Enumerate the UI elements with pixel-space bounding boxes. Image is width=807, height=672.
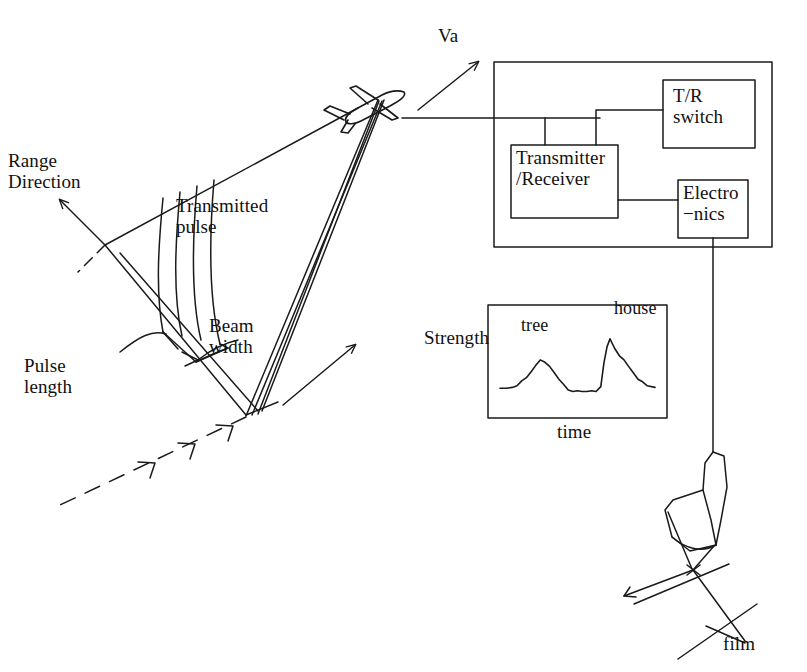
film-plane-upper xyxy=(634,564,729,604)
transmitted-pulse-label: Transmitted pulse xyxy=(176,195,268,238)
strength-axis-label: Strength xyxy=(424,327,489,348)
aircraft-icon xyxy=(324,86,405,133)
beam-edge-far xyxy=(262,100,384,411)
aircraft-wing-left xyxy=(350,86,378,104)
track-chevron-1 xyxy=(216,425,233,441)
velocity-label: Va xyxy=(438,25,458,46)
figure-canvas: Range Direction Transmitted pulse Beam w… xyxy=(0,0,807,672)
recorder-funnel xyxy=(665,490,716,551)
trswitch-to-transmitter xyxy=(596,110,663,145)
range-dashed-extension xyxy=(78,245,105,272)
beam-inner-a xyxy=(258,101,379,414)
strength-waveform xyxy=(500,339,655,392)
pulse-length-leader xyxy=(120,333,166,352)
velocity-arrow xyxy=(418,62,478,110)
beam-width-label: Beam width xyxy=(209,315,254,358)
range-direction-label: Range Direction xyxy=(8,150,81,193)
strength-plot-box xyxy=(488,305,667,418)
pulse-length-label: Pulse length xyxy=(24,355,72,398)
tree-peak-label: tree xyxy=(521,315,548,335)
recorder-body-right xyxy=(703,452,716,545)
azimuth-direction-arrow xyxy=(283,345,355,405)
transmitter-receiver-label: Transmitter /Receiver xyxy=(516,147,605,190)
house-peak-label: house xyxy=(614,298,657,318)
film-recorder xyxy=(624,452,757,659)
light-ray-left xyxy=(668,512,692,569)
ground-track-dashed xyxy=(60,417,246,505)
recorder-body-left xyxy=(713,452,727,545)
aircraft-fin xyxy=(341,120,355,133)
electronics-label: Electro −nics xyxy=(683,182,739,225)
film-label: film xyxy=(723,633,755,654)
beam-edge-near xyxy=(246,100,378,416)
time-axis-label: time xyxy=(557,421,591,442)
tr-switch-label: T/R switch xyxy=(673,85,723,128)
pulse-wavefront-1 xyxy=(158,198,163,332)
range-direction-arrow xyxy=(60,200,105,245)
beam-inner-b xyxy=(252,101,382,415)
